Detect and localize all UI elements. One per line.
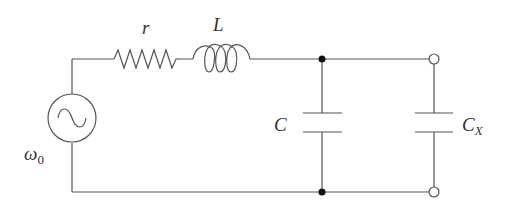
capacitor-c — [303, 59, 342, 192]
capacitor-cx-label: CX — [462, 114, 484, 138]
capacitor-cx-label-main: C — [462, 114, 475, 135]
bottom-terminal — [429, 187, 439, 197]
resistor-symbol — [114, 50, 193, 68]
bottom-junction-dot — [319, 189, 326, 196]
capacitor-cx-label-subscript: X — [474, 123, 484, 138]
top-junction-dot — [319, 56, 326, 63]
resistor-label: r — [142, 17, 150, 38]
capacitor-cx — [415, 64, 453, 187]
circuit-diagram: r L C CX ω0 — [0, 0, 516, 213]
source-label-subscript: 0 — [37, 152, 44, 167]
capacitor-c-label: C — [274, 114, 287, 135]
source-label-main: ω — [24, 143, 37, 164]
inductor-symbol — [193, 45, 322, 72]
inductor-label: L — [212, 14, 224, 35]
ac-source — [48, 94, 96, 142]
sine-wave-icon — [58, 109, 86, 127]
top-terminal — [429, 54, 439, 64]
source-label: ω0 — [24, 143, 44, 167]
